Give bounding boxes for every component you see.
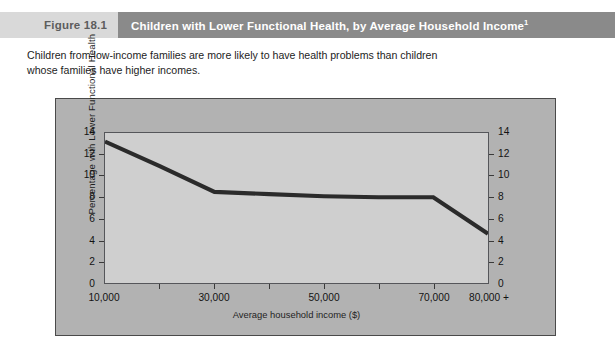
x-axis-tick-mark [159,284,160,289]
y-axis-left-tick-label: 8 [73,192,95,202]
y-axis-right-tick-label: 4 [498,236,520,246]
y-axis-right-tick-label: 6 [498,214,520,224]
y-axis-left-tick-label: 2 [73,257,95,267]
figure-title-text: Children with Lower Functional Health, b… [131,18,528,32]
figure-title-main: Children with Lower Functional Health, b… [131,20,524,32]
x-axis-tick-mark [214,284,215,289]
x-axis-tick-label: 50,000 [308,293,339,303]
y-axis-right-tick-label: 0 [498,279,520,289]
y-axis-left-tick-label: 4 [73,236,95,246]
x-axis-tick-label: 80,000 + [469,293,509,303]
y-axis-right-tick-mark [489,197,494,198]
y-axis-left-tick-mark [99,262,104,263]
y-axis-left-tick-label: 12 [73,149,95,159]
y-axis-left-tick-mark [99,154,104,155]
line-chart-canvas [105,133,488,283]
y-axis-left-tick-mark [99,241,104,242]
x-axis-tick-label: 10,000 [88,293,119,303]
chart-panel: Percentage with Lower Functional Health … [55,98,556,336]
y-axis-left-tick-label: 0 [73,279,95,289]
y-axis-right-tick-mark [489,219,494,220]
y-axis-right-tick-label: 10 [498,170,520,180]
figure-title-band: Children with Lower Functional Health, b… [118,12,615,38]
x-axis-tick-mark [379,284,380,289]
y-axis-right-tick-label: 8 [498,192,520,202]
y-axis-right-tick-label: 2 [498,257,520,267]
y-axis-left-tick-mark [99,175,104,176]
y-axis-right-tick-mark [489,241,494,242]
y-axis-right-tick-label: 14 [498,127,520,137]
figure-number-band: Figure 18.1 [0,12,118,38]
figure-title-footnote-marker: 1 [524,18,528,27]
y-axis-left-tick-label: 10 [73,170,95,180]
y-axis-left-tick-mark [99,197,104,198]
y-axis-left-tick-mark [99,219,104,220]
y-axis-right-tick-mark [489,262,494,263]
x-axis-tick-mark [269,284,270,289]
x-axis-tick-label: 70,000 [418,293,449,303]
x-axis-tick-label: 30,000 [198,293,229,303]
y-axis-left-tick-label: 6 [73,214,95,224]
y-axis-right-tick-label: 12 [498,149,520,159]
x-axis-tick-mark [434,284,435,289]
y-axis-right-tick-mark [489,154,494,155]
y-axis-left-tick-label: 14 [73,127,95,137]
plot-area [104,132,489,284]
y-axis-right-tick-mark [489,175,494,176]
data-series-line [105,142,488,234]
x-axis-tick-mark [324,284,325,289]
figure-number-label: Figure 18.1 [44,19,107,31]
x-axis-title: Average household income ($) [104,309,489,320]
